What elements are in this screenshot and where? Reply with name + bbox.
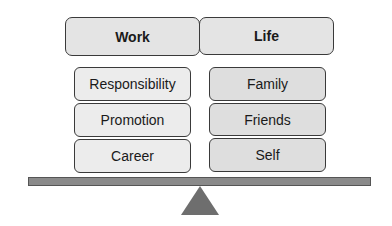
life-item-friends: Friends xyxy=(209,103,326,136)
life-header: Life xyxy=(199,17,334,55)
work-item-responsibility: Responsibility xyxy=(74,67,191,101)
life-item-self: Self xyxy=(209,138,326,172)
life-item-family: Family xyxy=(209,67,326,101)
balance-beam xyxy=(28,177,371,186)
work-header: Work xyxy=(65,17,200,56)
work-item-career: Career xyxy=(74,139,191,173)
fulcrum-triangle-icon xyxy=(181,186,219,215)
work-item-promotion: Promotion xyxy=(74,103,191,137)
